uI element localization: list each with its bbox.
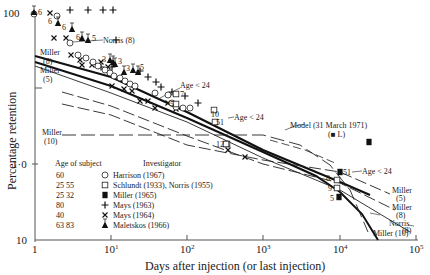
y-axis: [32, 12, 42, 242]
point-label: 51: [216, 118, 224, 127]
annotation-age-24-c: Age < 24: [362, 167, 392, 176]
legend-age: 25 55: [56, 181, 74, 190]
triangle-marker-icon: [102, 219, 108, 228]
point-label: 5: [140, 63, 144, 72]
filled-square-marker-icon: [102, 192, 107, 198]
annotation-age-24-a: Age < 24: [180, 81, 210, 90]
circle-marker-icon: [102, 172, 108, 178]
point-label: 7: [180, 90, 184, 99]
x-label-10: 101: [104, 243, 119, 255]
x-label-1000: 103: [256, 243, 271, 255]
legend-header-investigator: Investigator: [143, 159, 182, 168]
x-label-1: 1: [32, 243, 38, 255]
point-labels: 6 6 6 6 5 3 3 3 5 7 5 10 51 12 51 8 9 5: [38, 8, 351, 203]
annotation-miller-8-label: Miller: [40, 48, 60, 57]
point-label: 6: [62, 23, 66, 32]
point-label: 9: [328, 184, 332, 193]
point-label: 3: [102, 55, 106, 64]
y-label-01: 10: [16, 234, 28, 246]
annotation-model: Model (31 March 1971): [290, 121, 367, 130]
cross-marker-icon: [103, 213, 108, 218]
plus-marker-icon: [102, 202, 109, 209]
x-label-100000: 105: [409, 243, 424, 255]
legend-age: 40: [56, 211, 64, 220]
legend-age: 63 83: [56, 221, 74, 230]
square-marker-icon: [102, 182, 108, 188]
point-label: 5: [330, 194, 334, 203]
legend-header-age: Age of subject: [55, 159, 102, 168]
point-label: 3: [118, 57, 122, 66]
legend-investigator: Mays (1963): [113, 201, 154, 210]
legend-investigator: Miller (1965): [113, 191, 157, 200]
point-label: 8: [326, 174, 330, 183]
point-label: 6: [76, 33, 80, 42]
legend-investigator: Maletskos (1966): [113, 221, 170, 230]
point-label: 5: [92, 34, 96, 43]
x-axis: [35, 235, 418, 240]
legend-investigator: Schlundt (1933), Norris (1955): [113, 181, 213, 190]
annotation-norris-8: Norris (8): [103, 36, 135, 45]
curves: [35, 40, 414, 240]
y-axis-title: Percentage retention: [5, 92, 19, 190]
annotation-miller-10-label: Miller: [42, 128, 62, 137]
point-label: 12: [216, 140, 224, 149]
legend-age: 25 32: [56, 191, 74, 200]
annotation-miller-5-label: Miller: [40, 66, 60, 75]
legend-age: 60: [56, 171, 64, 180]
line-miller-5: [62, 104, 390, 194]
annotation-model-l: (■ L): [328, 130, 345, 139]
annotation-miller-5-right-num: (5): [396, 194, 406, 203]
y-label-100: 100: [3, 7, 20, 19]
annotation-miller-8-num: (8): [43, 57, 53, 66]
point-label: 6: [38, 8, 42, 17]
legend: Age of subject Investigator 60 Harrison …: [55, 159, 213, 230]
point-label: 51: [343, 168, 351, 177]
annotation-miller-5-num: (5): [43, 75, 53, 84]
annotation-miller-10-right: Miller (10): [373, 229, 409, 238]
legend-age: 80: [56, 201, 64, 210]
point-label: 5: [170, 100, 174, 109]
point-label: 3: [126, 64, 130, 73]
annotation-miller-10-num: (10): [44, 137, 58, 146]
x-axis-title: Days after injection (or last injection): [145, 259, 325, 273]
legend-investigator: Harrison (1967): [113, 171, 165, 180]
point-label: 6: [48, 17, 52, 26]
retention-chart: 100 1·0 10 1 101 102 103 104 105 Days af…: [0, 0, 430, 275]
x-label-10000: 104: [333, 243, 348, 255]
legend-investigator: Mays (1964): [113, 211, 154, 220]
x-label-100: 102: [180, 243, 195, 255]
annotation-age-24-b: Age < 24: [234, 113, 264, 122]
leader-age24-c: [352, 171, 362, 172]
